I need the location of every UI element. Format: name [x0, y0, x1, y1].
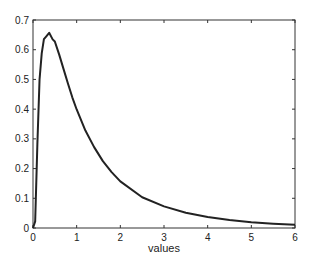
x-tick-label: 2: [118, 232, 124, 243]
y-tick-label: 0: [23, 223, 29, 234]
x-tick-label: 1: [74, 232, 80, 243]
y-tick-label: 0.3: [15, 133, 29, 144]
y-tick-label: 0.6: [15, 44, 29, 55]
y-tick-label: 0.1: [15, 193, 29, 204]
plot-area: [33, 20, 295, 228]
chart: 0123456 00.10.20.30.40.50.60.7 values: [0, 0, 314, 267]
x-tick-label: 4: [205, 232, 211, 243]
x-axis-label: values: [148, 242, 180, 254]
x-tick-label: 6: [292, 232, 298, 243]
y-tick-label: 0.4: [15, 104, 29, 115]
y-tick-label: 0.5: [15, 74, 29, 85]
x-tick-label: 0: [30, 232, 36, 243]
y-tick-label: 0.7: [15, 15, 29, 26]
x-tick-label: 5: [249, 232, 255, 243]
y-tick-label: 0.2: [15, 163, 29, 174]
